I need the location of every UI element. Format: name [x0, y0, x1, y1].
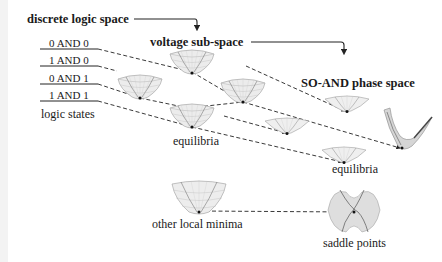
logic-states-caption: logic states [41, 108, 95, 120]
logic-state-1-and-0: 1 AND 0 [49, 55, 89, 66]
so-and-phase-space-title: SO-AND phase space [301, 77, 415, 90]
saddle-point-surface [328, 190, 380, 232]
logic-state-1-and-1: 1 AND 1 [49, 90, 89, 101]
logic-state-0-and-1: 0 AND 1 [49, 73, 89, 84]
voltage-bowl-11 [170, 103, 214, 129]
voltage-bowl-10 [118, 74, 162, 100]
equilibria-phase-caption: equilibria [332, 163, 378, 175]
voltage-sub-space-title: voltage sub-space [150, 36, 243, 49]
phase-bowl-a [325, 95, 369, 113]
equilibria-voltage-caption: equilibria [173, 135, 219, 147]
tilted-trough-surface [384, 108, 432, 150]
other-local-minima-bowl [172, 180, 226, 214]
logic-state-0-and-0: 0 AND 0 [49, 38, 89, 49]
voltage-to-phase-arrow [251, 42, 344, 52]
discrete-to-voltage-arrow [134, 19, 197, 28]
mapping-dashed-lines [98, 49, 400, 212]
voltage-bowl-00 [170, 49, 214, 75]
discrete-logic-space-title: discrete logic space [27, 13, 129, 26]
other-local-minima-caption: other local minima [152, 218, 243, 230]
phase-bowl-b [265, 117, 309, 135]
voltage-bowl-01 [221, 78, 265, 104]
saddle-points-caption: saddle points [323, 237, 386, 249]
